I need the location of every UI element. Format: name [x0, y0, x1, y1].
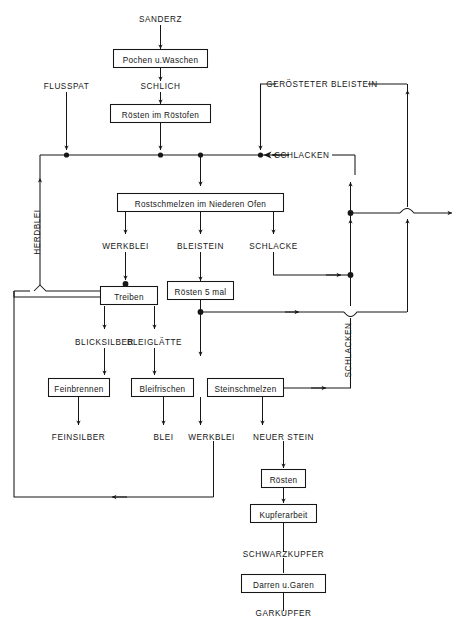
box-treiben[interactable]: Treiben: [101, 287, 158, 305]
label-schwarzkupfer: SCHWARZKUPFER: [243, 550, 324, 559]
label-sanderz: SANDERZ: [139, 15, 182, 24]
box-pochen[interactable]: Pochen u.Waschen: [114, 50, 208, 68]
label-werkblei-bottom: WERKBLEI: [188, 433, 235, 442]
edge-werkblei-to-treiben: [123, 252, 129, 287]
flowchart-canvas: Pochen u.Waschen Rösten im Röstofen Rost…: [0, 0, 455, 626]
junction-dot: [64, 152, 69, 157]
box-pochen-label: Pochen u.Waschen: [123, 56, 199, 65]
box-rostschmelzen-label: Rostschmelzen im Niederen Ofen: [135, 200, 267, 209]
box-roesten-im-roestofen[interactable]: Rösten im Röstofen: [111, 105, 211, 123]
box-roesten[interactable]: Rösten: [262, 470, 306, 488]
label-bleiglaette: BLEIGLÄTTE: [127, 337, 182, 347]
box-roesten-im-roestofen-label: Rösten im Röstofen: [122, 111, 199, 120]
label-neuer-stein: NEUER STEIN: [253, 433, 314, 442]
schlacken-right-riser: [348, 182, 354, 306]
edge-roesten5-outputs: [198, 300, 407, 356]
label-schlich: SCHLICH: [141, 82, 181, 91]
label-herdblei: HERDBLEI: [33, 209, 42, 254]
label-schlacken-right: SCHLACKEN: [344, 323, 353, 378]
junction-dot: [258, 152, 263, 157]
label-blei: BLEI: [154, 433, 174, 442]
label-geroesteter-bleistein: GERÖSTETER BLEISTEIN: [266, 79, 378, 89]
label-blicksilber: BLICKSILBER: [75, 338, 134, 347]
box-roesten-label: Rösten: [270, 476, 298, 485]
box-kupferarbeit-label: Kupferarbeit: [259, 511, 308, 520]
label-schlacke: SCHLACKE: [249, 242, 298, 251]
box-feinbrennen-label: Feinbrennen: [54, 385, 103, 394]
box-steinschmelzen-label: Steinschmelzen: [215, 385, 277, 394]
label-garkupfer: GARKUPFER: [256, 609, 312, 618]
box-kupferarbeit[interactable]: Kupferarbeit: [251, 505, 317, 523]
process-flow-diagram: Pochen u.Waschen Rösten im Röstofen Rost…: [0, 0, 455, 626]
box-bleifrischen[interactable]: Bleifrischen: [132, 379, 194, 397]
box-rostschmelzen[interactable]: Rostschmelzen im Niederen Ofen: [118, 194, 284, 212]
box-darren-u-garen[interactable]: Darren u.Garen: [242, 575, 326, 593]
box-feinbrennen[interactable]: Feinbrennen: [49, 379, 110, 397]
edge-steinschmelzen-schlacken: [283, 318, 351, 388]
box-treiben-label: Treiben: [114, 293, 144, 302]
edge-geroesteter-bleistein: [261, 84, 408, 150]
junction-dot: [158, 152, 163, 157]
label-werkblei-top: WERKBLEI: [102, 242, 149, 251]
label-schlacken-top: SCHLACKEN: [275, 151, 330, 160]
label-bleistein: BLEISTEIN: [177, 242, 224, 251]
box-darren-u-garen-label: Darren u.Garen: [253, 581, 314, 590]
box-roesten-5-mal[interactable]: Rösten 5 mal: [168, 282, 234, 300]
box-roesten-5-mal-label: Rösten 5 mal: [175, 288, 227, 297]
edge-schlacke-to-right-riser: [274, 252, 354, 278]
edge-herdblei-riser: [14, 178, 113, 297]
box-bleifrischen-label: Bleifrischen: [140, 385, 186, 394]
label-flusspat: FLUSSPAT: [44, 82, 90, 91]
box-steinschmelzen[interactable]: Steinschmelzen: [208, 379, 284, 397]
label-feinsilber: FEINSILBER: [52, 433, 105, 442]
edge-right-export: [351, 209, 453, 214]
